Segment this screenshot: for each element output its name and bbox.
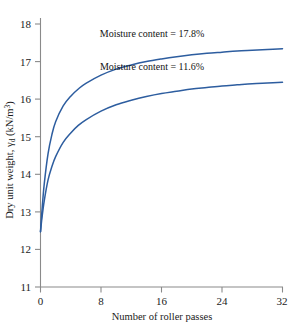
x-tick-label-16: 16 [156,295,168,307]
y-tick-label-18: 18 [20,18,32,30]
svg-text:Dry unit weight, γd (kN/m3): Dry unit weight, γd (kN/m3) [3,101,18,219]
x-axis-title: Number of roller passes [112,311,213,322]
x-tick-label-0: 0 [38,295,44,307]
y-tick-label-14: 14 [20,168,32,180]
y-tick-label-11: 11 [20,281,31,293]
annotation-moisture-11-6: Moisture content = 11.6% [100,61,204,72]
x-axis-ticks [41,287,283,293]
annotation-moisture-17-8: Moisture content = 17.8% [100,28,205,39]
curve-moisture-11-6 [41,82,283,232]
figure-container: 11 12 13 14 15 16 17 18 0 8 16 24 32 Num… [0,0,289,336]
x-tick-label-32: 32 [277,295,288,307]
x-axis-tick-labels: 0 8 16 24 32 [38,295,288,307]
y-tick-label-13: 13 [20,206,32,218]
y-tick-label-15: 15 [20,131,32,143]
x-tick-label-8: 8 [98,295,104,307]
y-tick-label-17: 17 [20,56,32,68]
y-axis-tick-labels: 11 12 13 14 15 16 17 18 [20,18,32,293]
y-tick-label-16: 16 [20,93,32,105]
y-axis-title-units: (kN/m [4,109,16,139]
dry-unit-weight-vs-roller-passes-chart: 11 12 13 14 15 16 17 18 0 8 16 24 32 Num… [0,0,289,336]
y-axis-title: Dry unit weight, γd (kN/m3) [3,101,18,219]
y-axis-title-main: Dry unit weight, [4,147,15,219]
curves-group [41,49,283,232]
y-axis-ticks [35,24,41,287]
curve-moisture-17-8 [41,49,283,232]
x-tick-label-24: 24 [217,295,229,307]
y-tick-label-12: 12 [20,243,31,255]
y-axis-title-units-end: ) [4,101,16,105]
